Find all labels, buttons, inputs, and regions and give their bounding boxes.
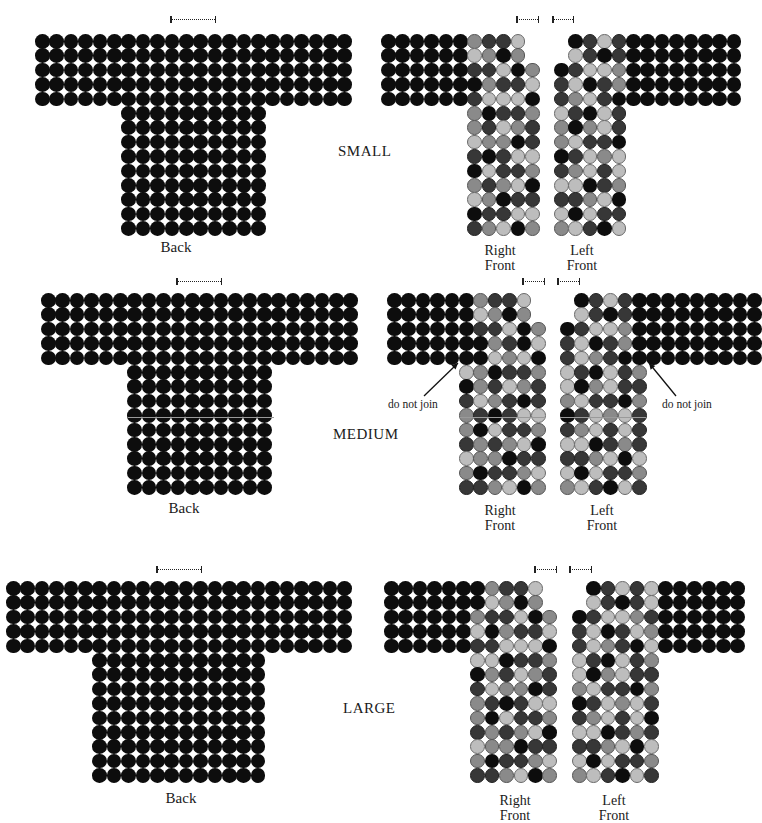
stitch [121,639,136,654]
stitch [644,653,659,668]
stitch [150,754,165,769]
stitch [121,610,136,625]
stitch [193,624,208,639]
stitch [398,595,413,610]
stitch [716,595,731,610]
stitch [6,610,21,625]
stitch [615,682,630,697]
stitch [164,711,179,726]
stitch [687,624,702,639]
stitch [78,581,93,596]
stitch [398,624,413,639]
stitch [615,595,630,610]
stitch [121,725,136,740]
stitch [150,610,165,625]
stitch [499,711,514,726]
stitch [92,768,107,783]
stitch [251,696,266,711]
stitch [615,610,630,625]
stitch [179,581,194,596]
stitch [644,595,659,610]
stitch [179,624,194,639]
stitch [542,653,557,668]
stitch [136,624,151,639]
stitch [92,653,107,668]
stitch [150,653,165,668]
stitch [499,768,514,783]
stitch [150,768,165,783]
stitch [499,610,514,625]
stitch [78,610,93,625]
stitch [630,595,645,610]
stitch [572,653,587,668]
stitch [236,768,251,783]
stitch [208,581,223,596]
stitch [92,639,107,654]
stitch [470,725,485,740]
stitch [294,581,309,596]
stitch [222,595,237,610]
stitch [673,581,688,596]
stitch [92,595,107,610]
stitch [485,581,500,596]
stitch [572,711,587,726]
stitch [208,667,223,682]
stitch [121,595,136,610]
stitch [136,696,151,711]
stitch [164,768,179,783]
stitch [107,581,122,596]
stitch [470,696,485,711]
stitch [630,739,645,754]
stitch [384,624,399,639]
stitch [236,667,251,682]
stitch [730,624,745,639]
stitch [164,667,179,682]
stitch [658,639,673,654]
stitch [294,639,309,654]
stitch [193,610,208,625]
stitch [150,624,165,639]
stitch [236,595,251,610]
stitch [208,624,223,639]
stitch [470,639,485,654]
stitch [64,581,79,596]
stitch [528,682,543,697]
stitch [49,595,64,610]
stitch [294,595,309,610]
stitch [222,754,237,769]
stitch [308,639,323,654]
stitch [222,667,237,682]
stitch [528,595,543,610]
stitch [92,711,107,726]
stitch [308,595,323,610]
stitch [150,667,165,682]
stitch [528,581,543,596]
stitch [615,725,630,740]
stitch [398,581,413,596]
stitch [615,581,630,596]
stitch [427,610,442,625]
stitch [78,624,93,639]
stitch [236,653,251,668]
stitch [456,581,471,596]
stitch [702,595,717,610]
stitch [572,739,587,754]
stitch [747,307,762,322]
stitch [470,581,485,596]
stitch [121,768,136,783]
stitch [499,696,514,711]
stitch [280,581,295,596]
stitch [49,639,64,654]
stitch [644,682,659,697]
stitch [251,768,266,783]
stitch [442,624,457,639]
stitch [92,739,107,754]
stitch [78,595,93,610]
stitch [514,581,529,596]
stitch [572,667,587,682]
stitch [150,682,165,697]
stitch [542,711,557,726]
stitch [615,624,630,639]
stitch [601,653,616,668]
stitch [236,624,251,639]
